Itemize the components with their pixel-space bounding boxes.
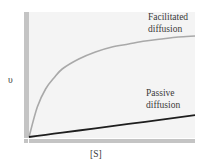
x-axis-label: [S]: [90, 149, 102, 159]
facilitated-label-line1: Facilitated: [148, 12, 188, 22]
passive-label-line2: diffusion: [146, 100, 180, 110]
facilitated-label-line2: diffusion: [148, 24, 182, 34]
y-axis-label: υ: [8, 75, 13, 85]
chart: Facilitated diffusion Passive diffusion …: [0, 0, 204, 165]
y-axis-bar: [24, 12, 29, 138]
passive-label-line1: Passive: [146, 88, 175, 98]
x-axis-bar: [29, 139, 195, 143]
axis-corner: [24, 139, 28, 143]
